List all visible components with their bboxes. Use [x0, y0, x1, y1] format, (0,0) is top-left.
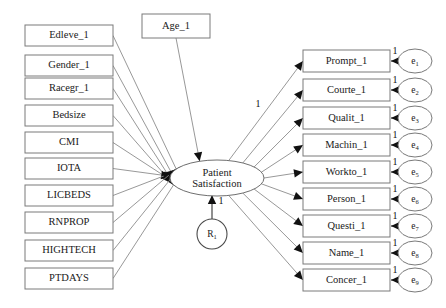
predictor-label-0: Edleve_1 [49, 29, 89, 40]
predictor-6-line [113, 173, 172, 196]
loading-4-arrow [293, 169, 303, 177]
error-coefficient-5: 1 [393, 183, 398, 194]
loading-1-arrow [294, 90, 303, 100]
indicator-label-0: Prompt_1 [326, 55, 367, 66]
error-coefficient-7: 1 [393, 237, 398, 248]
indicator-label-2: Qualit_1 [328, 112, 365, 123]
loading-2-line [254, 118, 303, 167]
error-coefficient-1: 1 [393, 74, 398, 85]
sem-canvas: Edleve_1Gender_1Racegr_1BedsizeCMIIOTALI… [0, 0, 446, 308]
predictor-label-2: Racegr_1 [49, 82, 89, 93]
error-coefficient-8: 1 [393, 264, 398, 275]
loading-0-arrow [294, 61, 303, 71]
predictor-label-9: PTDAYS [49, 272, 89, 283]
loading-5-arrow [293, 192, 303, 200]
predictor-label-age: Age_1 [162, 20, 190, 31]
error-coefficient-4: 1 [393, 156, 398, 167]
indicator-label-1: Courte_1 [327, 84, 366, 95]
age-predictor-line [176, 38, 200, 161]
indicator-label-3: Machin_1 [325, 139, 368, 150]
error-coefficient-6: 1 [393, 210, 398, 221]
loading-0-line [229, 61, 303, 161]
predictor-label-5: IOTA [57, 162, 82, 173]
predictor-2-line [113, 89, 176, 187]
indicator-label-5: Person_1 [327, 193, 366, 204]
indicator-label-7: Name_1 [329, 247, 365, 258]
sem-diagram: Edleve_1Gender_1Racegr_1BedsizeCMIIOTALI… [0, 0, 446, 308]
predictor-label-3: Bedsize [52, 109, 86, 120]
predictor-0-line [113, 36, 187, 192]
predictor-label-6: LICBEDS [47, 189, 91, 200]
error-coefficient-3: 1 [393, 129, 398, 140]
predictor-label-4: CMI [59, 136, 79, 147]
predictor-label-7: RNPROP [49, 216, 90, 227]
loading-6-arrow [293, 217, 303, 226]
predictor-label-8: HIGHTECH [42, 244, 96, 255]
error-coefficient-0: 1 [393, 45, 398, 56]
predictor-label-1: Gender_1 [48, 59, 89, 70]
first-loading-coefficient: 1 [256, 98, 261, 109]
loading-8-arrow [294, 270, 303, 280]
indicator-label-4: Workto_1 [326, 166, 368, 177]
indicator-label-6: Questi_1 [328, 220, 366, 231]
loading-8-line [229, 195, 303, 280]
indicator-label-8: Concer_1 [326, 274, 367, 285]
error-coefficient-2: 1 [393, 102, 398, 113]
age-predictor-arrow [194, 152, 202, 162]
loading-3-arrow [293, 145, 303, 153]
residual-coefficient: 1 [219, 195, 224, 206]
